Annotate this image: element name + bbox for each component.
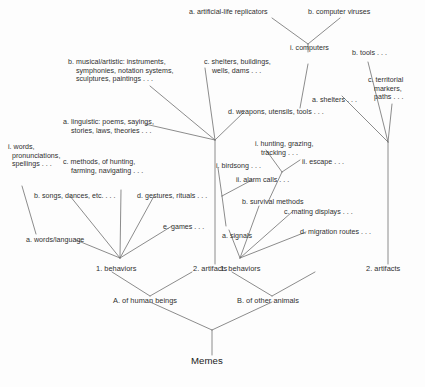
edge-weapons-to-computers <box>300 64 308 108</box>
label-words-language: a. words/language <box>26 236 84 245</box>
label-games: e. games . . . <box>163 223 204 232</box>
label-computers: i. computers <box>290 44 329 53</box>
node-memes-root: Memes <box>191 357 223 366</box>
edge-aa-tools <box>368 62 388 142</box>
edge-hb-songs <box>70 196 120 258</box>
label-hunting-grazing-tracking: i. hunting, grazing, tracking . . . <box>255 140 313 157</box>
edge-human-to-artifacts <box>150 272 192 296</box>
memes-taxonomy-diagram: a. artificial-life replicators b. comput… <box>0 0 425 387</box>
label-animal-shelters: a. shelters . . . <box>312 96 357 105</box>
label-survival-methods: b. survival methods <box>242 198 304 207</box>
label-animal-tools: b. tools . . . <box>352 49 387 58</box>
node-other-animals: B. of other animals <box>237 297 299 306</box>
label-weapons-utensils-tools: d. weapons, utensils, tools . . . <box>228 108 324 117</box>
label-computer-viruses: b. computer viruses <box>308 8 370 17</box>
label-songs-dances: b. songs, dances, etc. . . . <box>34 192 115 201</box>
label-mating-displays: c. mating displays . . . <box>284 208 353 217</box>
edge-ha-musical <box>150 86 215 140</box>
label-escape: ii. escape . . . <box>302 158 344 167</box>
node-animal-behaviors: 1. behaviors <box>220 265 261 274</box>
label-gestures-rituals: d. gestures, rituals . . . <box>137 192 207 201</box>
edge-animal-to-artifacts <box>272 272 315 296</box>
edge-ha-linguistic <box>145 124 215 140</box>
label-signals: a. signals <box>222 232 252 241</box>
node-animal-artifacts: 2. artifacts <box>366 265 400 274</box>
edge-computers-to-viruses <box>308 18 340 44</box>
label-territorial-markers: c. territorial markers, paths . . . <box>368 76 403 102</box>
label-alarm-calls: ii. alarm calls . . . <box>236 176 289 185</box>
edge-aa-territorial <box>388 104 392 142</box>
label-linguistic: a. linguistic: poems, sayings, stories, … <box>63 118 154 135</box>
label-birdsong: i. birdsong . . . <box>216 162 261 171</box>
edge-computers-to-alife <box>272 18 308 44</box>
label-human-shelters: c. shelters, buildings, wells, dams . . … <box>204 58 271 75</box>
edge-survival-to-escape <box>282 160 300 172</box>
edge-hb-methods <box>120 190 121 258</box>
label-artificial-life-replicators: a. artificial-life replicators <box>189 8 268 17</box>
label-words-pronunciations-spellings: i. words, pronunciations, spellings . . … <box>8 143 60 169</box>
label-methods-of-hunting: c. methods, of hunting, farming, navigat… <box>63 158 143 175</box>
edge-memes-to-animal <box>212 302 272 330</box>
edge-memes-to-human <box>150 302 212 330</box>
label-migration-routes: d. migration routes . . . <box>300 228 371 237</box>
edge-hb-gestures <box>120 196 154 258</box>
node-human-beings: A. of human beings <box>113 297 177 306</box>
edge-animal-to-behaviors <box>232 272 272 296</box>
edge-signals-to-birdsong <box>218 168 222 196</box>
edge-ha-shelters <box>205 68 215 140</box>
node-human-behaviors: 1. behaviors <box>96 265 137 274</box>
edge-signals-stem <box>222 196 226 226</box>
edge-human-to-behaviors <box>112 272 150 296</box>
label-musical-artistic: b. musical/artistic: instruments, sympho… <box>68 58 174 84</box>
